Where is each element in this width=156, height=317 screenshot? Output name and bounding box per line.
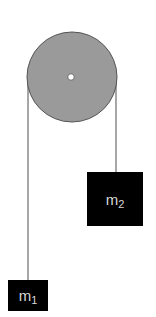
mass-block-m1: m1 [8, 280, 48, 311]
mass-block-m2: m2 [87, 172, 143, 226]
atwood-diagram [0, 0, 156, 317]
pulley-hub [68, 74, 74, 80]
mass-label-m1: m1 [19, 287, 38, 304]
mass-label-m2: m2 [106, 191, 125, 208]
